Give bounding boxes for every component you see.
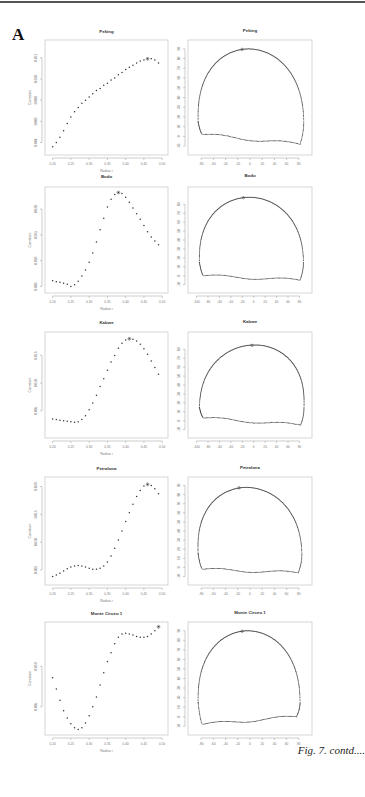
y-tick-label: 0.020 (34, 205, 38, 213)
x-tick-label: 0.20 (50, 742, 56, 746)
y-axis: -100102030405060708090 (177, 484, 185, 579)
y-tick-label: 20 (177, 115, 181, 119)
y-tick-label: 0 (177, 135, 181, 137)
x-tick-label: 40 (273, 592, 277, 596)
y-tick-label: 50 (177, 520, 181, 524)
x-tick-label: 0.40 (123, 445, 129, 449)
plot-frame (45, 40, 168, 155)
y-tick-label: 70 (177, 66, 181, 70)
x-tick-label: 0.30 (86, 592, 92, 596)
y-axis-label: Curvature (28, 232, 32, 247)
x-tick-label: -60 (217, 300, 222, 304)
y-tick-label: 0.008 (34, 96, 38, 104)
y-tick-label: 60 (177, 76, 181, 80)
x-tick-label: 0.45 (141, 445, 147, 449)
x-tick-label: 80 (297, 592, 301, 596)
x-tick-label: 0.50 (159, 162, 165, 166)
x-tick-label: 0 (253, 445, 255, 449)
plot-title: Petralona (240, 465, 261, 470)
x-tick-label: 20 (263, 300, 267, 304)
outline-points (199, 196, 304, 280)
x-axis: 0.200.250.300.350.400.450.50 (50, 158, 166, 166)
y-axis: 0.0050.010 (34, 662, 42, 711)
data-points (52, 191, 159, 287)
x-axis: 0.200.250.300.350.400.450.50 (50, 296, 166, 304)
x-tick-label: 0 (249, 162, 251, 166)
plot-frame (45, 332, 168, 438)
x-tick-label: 0.25 (68, 742, 74, 746)
figure-canvas: Peking0.200.250.300.350.400.450.500.0040… (0, 0, 365, 797)
plot-title: Monte Circeo 1 (234, 610, 266, 615)
x-axis-label: Radius r (100, 749, 113, 753)
x-tick-label: 0 (253, 300, 255, 304)
x-tick-label: -40 (229, 445, 234, 449)
y-tick-label: 20 (177, 547, 181, 551)
x-tick-label: 40 (275, 445, 279, 449)
x-tick-label: 0.25 (68, 445, 74, 449)
x-tick-label: 0.35 (104, 445, 110, 449)
x-tick-label: 0.45 (141, 592, 147, 596)
x-tick-label: -20 (240, 300, 245, 304)
x-axis-label: Radius r (100, 452, 113, 456)
y-tick-label: 30 (177, 247, 181, 251)
y-tick-label: 10 (177, 265, 181, 269)
y-tick-label: 80 (177, 202, 181, 206)
y-tick-label: 30 (177, 105, 181, 109)
outline-plot-peking: Peking-80-60-40-20020406080-100102030405… (177, 28, 312, 166)
figure-caption: Fig. 7. contd.... (270, 744, 365, 756)
y-tick-label: 80 (177, 493, 181, 497)
data-points (52, 57, 159, 147)
outline-plot-kabwe: Kabwe-100-80-60-40-20020406080-100102030… (177, 319, 312, 449)
plot-frame (188, 332, 312, 438)
x-axis: 0.200.250.300.350.400.450.50 (50, 441, 166, 449)
y-tick-label: -10 (177, 574, 181, 579)
x-tick-label: 0.50 (159, 742, 165, 746)
y-tick-label: 80 (177, 57, 181, 61)
y-tick-label: 50 (177, 667, 181, 671)
y-tick-label: 60 (177, 511, 181, 515)
x-tick-label: 0.50 (159, 300, 165, 304)
plot-frame (188, 40, 312, 155)
y-tick-label: 0.005 (34, 282, 38, 290)
y-tick-label: 40 (177, 383, 181, 387)
y-tick-label: 90 (177, 629, 181, 633)
y-tick-label: 70 (177, 356, 181, 360)
x-tick-label: -80 (199, 592, 204, 596)
y-tick-label: 70 (177, 648, 181, 652)
y-tick-label: 20 (177, 401, 181, 405)
y-tick-label: 0.005 (34, 566, 38, 574)
x-tick-label: 0.40 (123, 592, 129, 596)
y-tick-label: 0.015 (34, 351, 38, 359)
x-tick-label: -20 (235, 162, 240, 166)
y-tick-label: 70 (177, 211, 181, 215)
y-axis: -1001020304050607080 (177, 202, 185, 286)
x-axis-label: Radius r (100, 169, 113, 173)
x-tick-label: -20 (240, 445, 245, 449)
y-tick-label: 0.004 (34, 138, 38, 146)
x-tick-label: 20 (260, 592, 264, 596)
x-tick-label: 0.35 (104, 300, 110, 304)
outline-points (197, 487, 302, 574)
y-axis: -100102030405060708090 (177, 47, 185, 149)
y-tick-label: 40 (177, 677, 181, 681)
x-axis-label: Radius r (100, 599, 113, 603)
curvature-plot-peking: Peking0.200.250.300.350.400.450.500.0040… (28, 29, 168, 173)
x-tick-label: 20 (263, 445, 267, 449)
y-tick-label: 0.010 (34, 538, 38, 546)
y-tick-label: 40 (177, 238, 181, 242)
x-tick-label: -80 (199, 162, 204, 166)
data-points (52, 337, 159, 423)
y-axis: 0.0050.0100.0150.020 (34, 482, 42, 574)
y-tick-label: 80 (177, 347, 181, 351)
x-tick-label: -20 (235, 742, 240, 746)
x-tick-label: -100 (193, 300, 200, 304)
x-tick-label: 20 (260, 162, 264, 166)
x-tick-label: -40 (223, 592, 228, 596)
plot-title: Kabwe (243, 319, 258, 324)
x-tick-label: 0.35 (104, 162, 110, 166)
x-tick-label: -60 (211, 742, 216, 746)
x-tick-label: -60 (211, 592, 216, 596)
plot-frame (188, 622, 312, 735)
y-tick-label: 0.010 (34, 379, 38, 387)
x-tick-label: 40 (273, 162, 277, 166)
